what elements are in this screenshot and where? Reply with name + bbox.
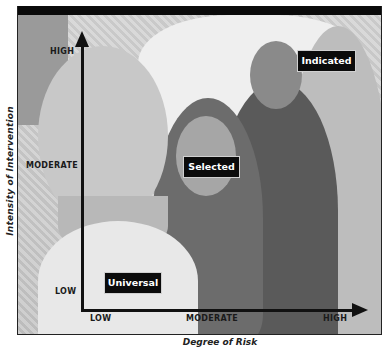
y-tick-low: LOW: [55, 287, 76, 297]
frame-top-bar: [18, 6, 381, 15]
selected-box: Selected: [183, 156, 240, 178]
indicated-box: Indicated: [297, 50, 356, 72]
x-tick-moderate: MODERATE: [186, 314, 238, 324]
x-axis-title: Degree of Risk: [150, 337, 290, 347]
y-tick-moderate: MODERATE: [26, 161, 78, 171]
y-axis-line: [81, 44, 84, 312]
arrow-right-icon: [352, 303, 368, 317]
universal-box: Universal: [104, 272, 162, 294]
x-tick-high: HIGH: [323, 314, 347, 324]
x-tick-low: LOW: [90, 314, 111, 324]
photo-person-back-head: [250, 41, 302, 109]
x-axis-line: [81, 309, 356, 312]
y-tick-high: HIGH: [50, 47, 74, 57]
arrow-up-icon: [75, 31, 89, 47]
